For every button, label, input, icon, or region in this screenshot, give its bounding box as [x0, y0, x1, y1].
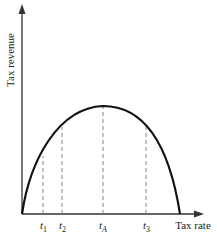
- x-axis-arrow-icon: [194, 211, 204, 218]
- dashed-guides: [43, 107, 146, 214]
- laffer-curve-diagram: Tax revenue Tax rate t1 t2 tA t3: [0, 0, 217, 240]
- tick-t3: t3: [143, 219, 150, 234]
- tick-t2: t2: [59, 219, 66, 234]
- tick-tA: tA: [99, 219, 107, 234]
- x-axis-label: Tax rate: [175, 219, 211, 231]
- y-axis-arrow-icon: [19, 4, 26, 14]
- tax-revenue-curve: [22, 106, 180, 214]
- y-axis-label: Tax revenue: [4, 33, 16, 87]
- tick-t1: t1: [40, 219, 47, 234]
